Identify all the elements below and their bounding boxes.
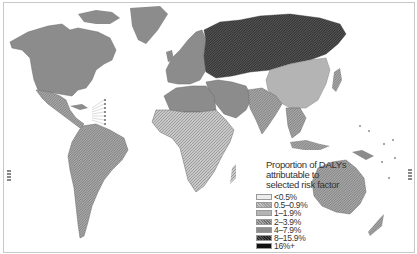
region-north-africa bbox=[164, 86, 216, 112]
legend-item: 4–7.9% bbox=[256, 226, 366, 234]
caribbean-callout-lines bbox=[92, 100, 104, 124]
legend-item: 16%+ bbox=[256, 242, 366, 250]
left-edge-marker bbox=[7, 170, 11, 182]
region-indonesia bbox=[290, 140, 330, 150]
region-uk bbox=[166, 50, 174, 62]
region-arctic-islands bbox=[78, 10, 120, 24]
legend-title: Proportion of DALYs attributable to sele… bbox=[266, 160, 366, 190]
legend-swatch bbox=[256, 227, 272, 233]
region-papua-new-guinea bbox=[352, 150, 374, 160]
region-madagascar bbox=[230, 164, 236, 184]
legend-swatch bbox=[256, 235, 272, 241]
map-legend: Proportion of DALYs attributable to sele… bbox=[256, 160, 366, 250]
legend-swatch bbox=[256, 194, 272, 200]
legend-title-line-3: selected risk factor bbox=[266, 180, 366, 190]
legend-item: <0.5% bbox=[256, 193, 366, 201]
legend-item: 8–15.9% bbox=[256, 234, 366, 242]
legend-swatch bbox=[256, 202, 272, 208]
region-mexico-central-america bbox=[36, 90, 84, 128]
legend-item: 1–1.9% bbox=[256, 209, 366, 217]
region-japan bbox=[332, 68, 342, 92]
region-sub-saharan-africa bbox=[152, 110, 234, 192]
caribbean-inset-markers bbox=[104, 99, 106, 125]
region-new-zealand bbox=[368, 214, 384, 236]
region-north-america bbox=[10, 24, 116, 96]
region-caribbean bbox=[70, 104, 88, 110]
legend-swatch bbox=[256, 219, 272, 225]
legend-item: 2–3.9% bbox=[256, 218, 366, 226]
right-edge-marker bbox=[408, 169, 412, 181]
legend-swatch bbox=[256, 210, 272, 216]
legend-swatch bbox=[256, 243, 272, 249]
region-southeast-asia bbox=[286, 108, 306, 138]
region-south-america bbox=[68, 124, 128, 238]
region-greenland bbox=[130, 6, 168, 44]
legend-label: 16%+ bbox=[274, 241, 295, 251]
legend-item: 0.5–0.9% bbox=[256, 201, 366, 209]
